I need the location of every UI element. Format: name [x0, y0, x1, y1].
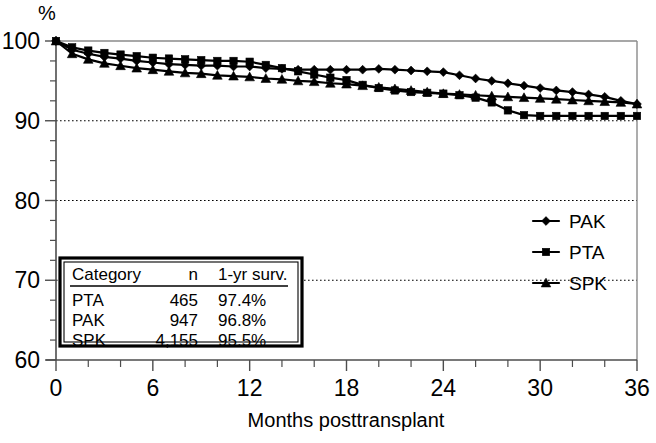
x-tick-label-6: 6 — [146, 375, 159, 401]
marker-pta-31 — [553, 112, 560, 119]
x-tick-label-18: 18 — [334, 375, 360, 401]
x-axis-tick-labels: 061218243036 — [50, 375, 650, 401]
marker-pak-19 — [358, 65, 367, 74]
stats-table-row: PTA46597.4% — [72, 291, 266, 310]
stats-cell-survival: 96.8% — [218, 311, 266, 330]
stats-cell-survival: 97.4% — [218, 291, 266, 310]
stats-table-header-category: Category — [72, 265, 141, 284]
marker-pta-11 — [230, 57, 237, 64]
survival-chart: 60708090100 061218243036 PAKPTASPK Categ… — [0, 0, 656, 443]
marker-pak-31 — [552, 86, 561, 95]
x-tick-label-30: 30 — [527, 375, 553, 401]
x-tick-label-24: 24 — [431, 375, 457, 401]
y-tick-label-100: 100 — [2, 28, 40, 54]
marker-pak-22 — [407, 66, 416, 75]
marker-pta-35 — [617, 112, 624, 119]
y-axis-unit-label: % — [38, 2, 56, 24]
marker-pta-13 — [262, 61, 269, 68]
stats-cell-n: 465 — [170, 291, 198, 310]
marker-pta-33 — [585, 112, 592, 119]
stats-cell-survival: 95.5% — [218, 331, 266, 350]
marker-pta-32 — [569, 112, 576, 119]
stats-cell-n: 4,155 — [155, 331, 198, 350]
marker-pta-29 — [520, 111, 527, 118]
legend-item-pta[interactable]: PTA — [533, 242, 605, 263]
marker-pak-25 — [455, 71, 464, 80]
marker-pta-3 — [101, 49, 108, 56]
marker-pta-4 — [117, 51, 124, 58]
x-tick-label-12: 12 — [237, 375, 263, 401]
marker-pta-15 — [294, 68, 301, 75]
marker-pak-24 — [439, 68, 448, 77]
stats-table-row: SPK4,15595.5% — [72, 331, 266, 350]
y-tick-label-60: 60 — [14, 347, 40, 373]
legend-label-pak: PAK — [569, 211, 606, 232]
stats-cell-category: PTA — [72, 291, 104, 310]
marker-pak-28 — [503, 79, 512, 88]
marker-pak-27 — [487, 76, 496, 85]
legend-item-spk[interactable]: SPK — [533, 273, 607, 294]
series-pta — [52, 37, 640, 119]
chart-canvas: 60708090100 061218243036 PAKPTASPK Categ… — [0, 0, 656, 443]
stats-table-row: PAK94796.8% — [72, 311, 266, 330]
x-axis-title: Months posttransplant — [248, 409, 445, 431]
marker-pak-18 — [342, 65, 351, 74]
legend: PAKPTASPK — [533, 211, 607, 294]
marker-pta-30 — [536, 112, 543, 119]
marker-pta-7 — [165, 55, 172, 62]
legend-marker-pta — [542, 248, 549, 255]
x-tick-label-36: 36 — [624, 375, 650, 401]
y-axis-tick-labels: 60708090100 — [2, 28, 40, 373]
marker-pak-21 — [391, 65, 400, 74]
marker-pta-5 — [133, 52, 140, 59]
stats-table-header-survival: 1-yr surv. — [218, 265, 288, 284]
y-tick-label-70: 70 — [14, 267, 40, 293]
legend-item-pak[interactable]: PAK — [533, 211, 606, 232]
stats-cell-category: SPK — [72, 331, 107, 350]
gridlines-group — [56, 121, 637, 281]
marker-pta-6 — [149, 54, 156, 61]
marker-pta-2 — [85, 47, 92, 54]
stats-cell-category: PAK — [72, 311, 105, 330]
x-tick-label-0: 0 — [50, 375, 63, 401]
marker-pta-14 — [278, 64, 285, 71]
marker-pta-12 — [246, 58, 253, 65]
marker-pak-29 — [520, 81, 529, 90]
stats-table-header-n: n — [189, 265, 198, 284]
legend-label-pta: PTA — [569, 242, 605, 263]
marker-pak-26 — [471, 74, 480, 83]
stats-table: Categoryn1-yr surv.PTA46597.4%PAK94796.8… — [60, 258, 302, 350]
marker-pak-30 — [536, 84, 545, 93]
marker-pta-10 — [214, 57, 221, 64]
marker-pta-36 — [633, 112, 640, 119]
marker-pak-23 — [423, 67, 432, 76]
y-tick-label-80: 80 — [14, 188, 40, 214]
data-series-group — [51, 36, 642, 119]
marker-pak-20 — [374, 65, 383, 74]
stats-cell-n: 947 — [170, 311, 198, 330]
legend-label-spk: SPK — [569, 273, 607, 294]
marker-pak-17 — [326, 65, 335, 74]
y-tick-label-90: 90 — [14, 108, 40, 134]
marker-pta-28 — [504, 107, 511, 114]
marker-pta-8 — [181, 56, 188, 63]
series-pak — [52, 37, 642, 109]
marker-pta-9 — [198, 56, 205, 63]
marker-pta-34 — [601, 112, 608, 119]
legend-marker-pak — [542, 217, 551, 226]
